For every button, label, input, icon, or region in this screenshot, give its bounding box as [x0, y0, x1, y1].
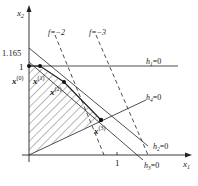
y-tick-label-1165: 1.165 [2, 48, 21, 58]
feasible-region-diagram: x2 x1 1 1 1.165 h1=0 h2=0 h3=0 h4=0 f=−2… [0, 0, 198, 186]
label-f-minus3: f=−3 [89, 28, 106, 37]
x2-axis-arrow-icon [27, 5, 32, 12]
y-tick-label-1: 1 [19, 62, 24, 72]
point-x3 [99, 118, 103, 122]
x1-tick-label: 1 [115, 158, 120, 168]
label-h3: h3=0 [144, 161, 159, 171]
y-axis-label: x2 [16, 8, 24, 19]
label-x3: x(3) [93, 125, 106, 136]
line-f-minus3 [96, 35, 148, 155]
label-h2: h2=0 [153, 142, 168, 152]
point-x0 [27, 64, 31, 68]
point-x2 [62, 80, 66, 84]
label-x0: x(0) [11, 75, 24, 86]
label-f-minus2: f=−2 [48, 28, 65, 37]
point-x1 [38, 64, 42, 68]
x-axis-label: x1 [182, 159, 190, 170]
x1-axis-arrow-icon [185, 153, 192, 158]
label-h4: h4=0 [146, 93, 161, 103]
label-h1: h1=0 [146, 57, 161, 67]
